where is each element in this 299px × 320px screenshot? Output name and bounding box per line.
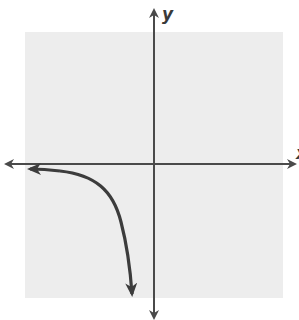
x-axis-label: x bbox=[295, 143, 299, 163]
graph-figure: y x bbox=[0, 0, 299, 320]
y-axis-label: y bbox=[162, 4, 174, 24]
